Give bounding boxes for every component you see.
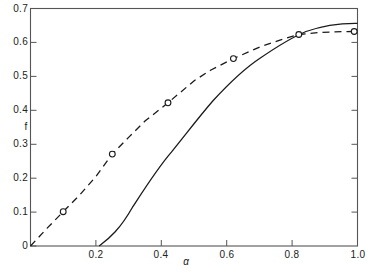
x-axis-label: α <box>179 256 193 267</box>
y-axis-ticks-right <box>352 42 358 212</box>
x-tick-label-0.6: 0.6 <box>212 249 242 260</box>
data-point-marker <box>60 209 66 215</box>
x-tick-label-0.8: 0.8 <box>277 249 307 260</box>
chart-figure: 0.7 0.6 0.5 0.4 0.3 0.2 0.1 0 0.2 0.4 0.… <box>0 0 373 274</box>
y-tick-label-0.6: 0.6 <box>2 36 28 47</box>
y-tick-label-0.2: 0.2 <box>2 172 28 183</box>
data-point-marker <box>296 32 302 38</box>
series-solid-curve <box>99 23 357 246</box>
x-tick-label-0.4: 0.4 <box>146 249 176 260</box>
plot-frame <box>31 9 358 247</box>
y-tick-label-0.4: 0.4 <box>2 104 28 115</box>
y-tick-label-0.7: 0.7 <box>2 3 28 14</box>
data-point-marker <box>109 151 115 157</box>
y-tick-label-0.5: 0.5 <box>2 70 28 81</box>
y-tick-label-0.3: 0.3 <box>2 138 28 149</box>
x-tick-label-1.0: 1.0 <box>343 249 373 260</box>
x-axis-ticks <box>96 240 358 246</box>
data-point-marker <box>351 29 357 35</box>
data-point-marker <box>231 56 237 62</box>
series-dashed-markers <box>60 29 357 215</box>
y-axis-label: f <box>20 121 32 132</box>
plot-canvas <box>0 0 373 274</box>
x-tick-label-0.2: 0.2 <box>81 249 111 260</box>
y-tick-label-0.1: 0.1 <box>2 206 28 217</box>
series-dashed-curve <box>31 32 355 247</box>
data-point-marker <box>165 100 171 106</box>
y-tick-label-0: 0 <box>2 240 28 251</box>
